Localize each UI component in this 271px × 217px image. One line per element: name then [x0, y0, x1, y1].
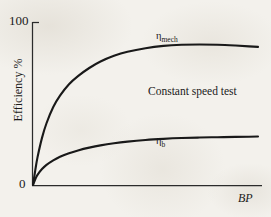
curve-label-eta-b-subscript: b — [162, 140, 166, 149]
curve-label-eta-mech-subscript: mech — [162, 35, 178, 44]
curve-label-eta-mech: ηmech — [156, 31, 178, 44]
y-axis-tick-label-0: 0 — [19, 177, 26, 190]
curve-eta-b — [33, 137, 258, 185]
y-axis-tick-label-100: 100 — [9, 14, 29, 27]
plot-canvas — [0, 0, 271, 217]
efficiency-vs-brake-power-chart: 100 0 Efficiency % BP Constant speed tes… — [0, 0, 271, 217]
x-axis-title: BP — [238, 192, 253, 204]
curve-eta-mech — [33, 44, 258, 185]
y-axis-title: Efficiency % — [12, 48, 24, 132]
curve-label-eta-b: ηb — [156, 136, 165, 149]
chart-annotation-note: Constant speed test — [148, 86, 237, 98]
